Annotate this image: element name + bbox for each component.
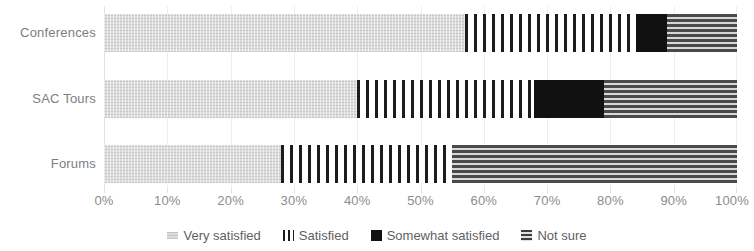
legend-label: Very satisfied (183, 229, 260, 242)
segment-not-sure[interactable] (604, 80, 737, 118)
value-axis: 0% 10% 20% 30% 40% 50% 60% 70% 80% 90% 1… (104, 193, 737, 213)
x-tick-label-40: 40% (344, 193, 371, 208)
x-tick-label-30: 30% (281, 193, 308, 208)
category-label-forums: Forums (0, 156, 96, 171)
bar-row-conferences (104, 14, 737, 52)
stacked-bar (104, 80, 737, 118)
x-tick-label-70: 70% (534, 193, 561, 208)
segment-not-sure[interactable] (667, 14, 737, 52)
segment-satisfied[interactable] (465, 14, 636, 52)
stacked-bar (104, 14, 737, 52)
legend-swatch-somewhat-satisfied-icon (371, 230, 382, 241)
x-tick-label-10: 10% (154, 193, 181, 208)
legend-label: Satisfied (299, 229, 349, 242)
x-tick-label-90: 90% (660, 193, 687, 208)
legend-item-very-satisfied[interactable]: Very satisfied (167, 229, 260, 242)
segment-somewhat-satisfied[interactable] (534, 80, 604, 118)
legend-swatch-very-satisfied-icon (167, 232, 178, 239)
category-label-conferences: Conferences (0, 25, 96, 40)
legend-label: Somewhat satisfied (387, 229, 500, 242)
segment-very-satisfied[interactable] (104, 145, 281, 183)
x-tick-label-80: 80% (597, 193, 624, 208)
legend-item-somewhat-satisfied[interactable]: Somewhat satisfied (371, 229, 500, 242)
bar-row-sac-tours (104, 80, 737, 118)
legend-item-satisfied[interactable]: Satisfied (283, 229, 349, 242)
segment-satisfied[interactable] (281, 145, 452, 183)
x-tick-label-0: 0% (94, 193, 113, 208)
chart-legend: Very satisfied Satisfied Somewhat satisf… (0, 229, 754, 242)
legend-item-not-sure[interactable]: Not sure (521, 229, 586, 242)
category-label-sac-tours: SAC Tours (0, 91, 96, 106)
x-tick-label-50: 50% (407, 193, 434, 208)
bar-row-forums (104, 145, 737, 183)
segment-very-satisfied[interactable] (104, 80, 357, 118)
segment-somewhat-satisfied[interactable] (636, 14, 668, 52)
legend-label: Not sure (537, 229, 586, 242)
stacked-bar (104, 145, 737, 183)
x-tick-label-20: 20% (217, 193, 244, 208)
legend-swatch-satisfied-icon (283, 230, 294, 241)
x-tick-label-100: 100% (715, 193, 749, 208)
segment-not-sure[interactable] (452, 145, 737, 183)
stacked-bar-chart: Conferences SAC Tours Forums (0, 0, 754, 251)
segment-satisfied[interactable] (357, 80, 534, 118)
x-tick-label-60: 60% (470, 193, 497, 208)
legend-swatch-not-sure-icon (521, 230, 532, 241)
plot-area (104, 6, 737, 191)
segment-very-satisfied[interactable] (104, 14, 465, 52)
